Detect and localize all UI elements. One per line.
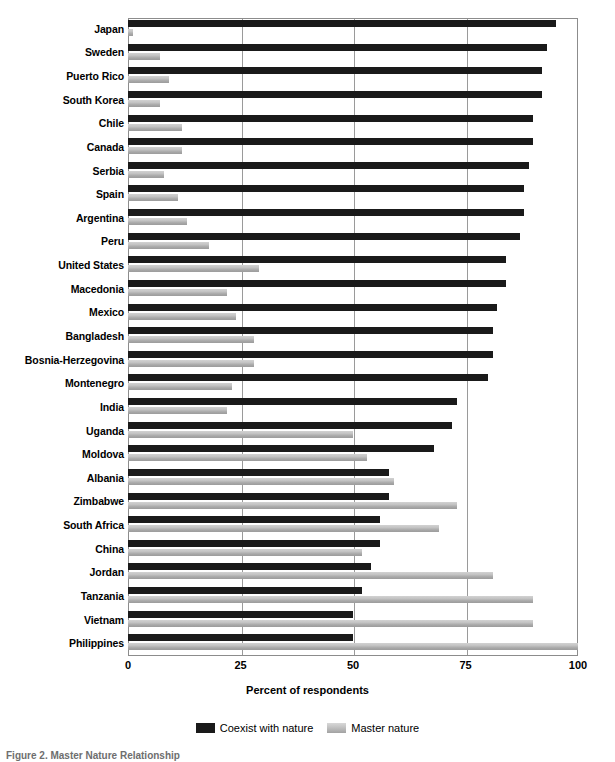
- bar-master: [128, 620, 533, 627]
- bar-row: [128, 514, 578, 538]
- bar-coexist: [128, 351, 493, 358]
- bar-row: [128, 491, 578, 515]
- bar-master: [128, 100, 160, 107]
- y-label-peru: Peru: [0, 236, 124, 247]
- x-tick-75: 75: [459, 659, 471, 671]
- bar-row: [128, 632, 578, 656]
- y-label-chile: Chile: [0, 118, 124, 129]
- y-label-montenegro: Montenegro: [0, 378, 124, 389]
- y-label-china: China: [0, 544, 124, 555]
- x-tick-50: 50: [347, 659, 359, 671]
- bar-row: [128, 65, 578, 89]
- bar-coexist: [128, 587, 362, 594]
- bar-master: [128, 242, 209, 249]
- x-axis-ticks: 0255075100: [128, 659, 578, 675]
- y-label-macedonia: Macedonia: [0, 284, 124, 295]
- bar-master: [128, 431, 353, 438]
- y-label-vietnam: Vietnam: [0, 615, 124, 626]
- figure-caption: Figure 2. Master Nature Relationship: [6, 750, 606, 762]
- legend-label-master: Master nature: [351, 722, 419, 734]
- y-label-argentina: Argentina: [0, 213, 124, 224]
- bar-row: [128, 207, 578, 231]
- x-tick-100: 100: [569, 659, 587, 671]
- bar-row: [128, 42, 578, 66]
- bar-coexist: [128, 374, 488, 381]
- y-label-uganda: Uganda: [0, 426, 124, 437]
- x-axis-title: Percent of respondents: [0, 684, 615, 696]
- bar-row: [128, 396, 578, 420]
- bar-master: [128, 147, 182, 154]
- bar-row: [128, 18, 578, 42]
- bar-master: [128, 525, 439, 532]
- y-label-india: India: [0, 402, 124, 413]
- y-label-united-states: United States: [0, 260, 124, 271]
- bar-row: [128, 254, 578, 278]
- bar-master: [128, 53, 160, 60]
- bar-coexist: [128, 280, 506, 287]
- bar-row: [128, 113, 578, 137]
- bar-row: [128, 183, 578, 207]
- bar-row: [128, 467, 578, 491]
- bar-master: [128, 596, 533, 603]
- bar-coexist: [128, 91, 542, 98]
- y-label-bosnia-herzegovina: Bosnia-Herzegovina: [0, 355, 124, 366]
- y-label-south-korea: South Korea: [0, 95, 124, 106]
- bar-row: [128, 325, 578, 349]
- bar-row: [128, 160, 578, 184]
- bar-row: [128, 609, 578, 633]
- bar-coexist: [128, 634, 353, 641]
- chart-legend: Coexist with nature Master nature: [0, 722, 615, 734]
- bar-master: [128, 76, 169, 83]
- bar-coexist: [128, 327, 493, 334]
- legend-item-master: Master nature: [327, 722, 419, 734]
- bar-coexist: [128, 209, 524, 216]
- bar-coexist: [128, 516, 380, 523]
- bar-master: [128, 383, 232, 390]
- bar-master: [128, 502, 457, 509]
- bar-master: [128, 171, 164, 178]
- y-label-japan: Japan: [0, 24, 124, 35]
- x-tick-0: 0: [125, 659, 131, 671]
- bar-coexist: [128, 256, 506, 263]
- y-label-bangladesh: Bangladesh: [0, 331, 124, 342]
- bar-master: [128, 289, 227, 296]
- bar-coexist: [128, 398, 457, 405]
- y-label-mexico: Mexico: [0, 307, 124, 318]
- bar-coexist: [128, 304, 497, 311]
- bar-coexist: [128, 138, 533, 145]
- bar-row: [128, 278, 578, 302]
- bar-row: [128, 538, 578, 562]
- bar-row: [128, 349, 578, 373]
- bar-master: [128, 572, 493, 579]
- x-tick-25: 25: [234, 659, 246, 671]
- bar-master: [128, 29, 133, 36]
- bar-coexist: [128, 20, 556, 27]
- bar-coexist: [128, 162, 529, 169]
- bar-coexist: [128, 67, 542, 74]
- bar-master: [128, 454, 367, 461]
- bar-master: [128, 360, 254, 367]
- bar-master: [128, 478, 394, 485]
- bar-master: [128, 407, 227, 414]
- bar-coexist: [128, 445, 434, 452]
- bar-coexist: [128, 44, 547, 51]
- y-label-spain: Spain: [0, 189, 124, 200]
- bar-master: [128, 218, 187, 225]
- bar-master: [128, 643, 578, 650]
- plot-area: [128, 18, 578, 656]
- y-label-albania: Albania: [0, 473, 124, 484]
- bar-row: [128, 443, 578, 467]
- bar-coexist: [128, 611, 353, 618]
- light-swatch-icon: [327, 723, 346, 733]
- bar-row: [128, 585, 578, 609]
- y-axis-category-labels: JapanSwedenPuerto RicoSouth KoreaChileCa…: [0, 18, 124, 656]
- y-label-canada: Canada: [0, 142, 124, 153]
- legend-label-coexist: Coexist with nature: [220, 722, 314, 734]
- bar-master: [128, 549, 362, 556]
- bar-rows: [128, 18, 578, 656]
- bar-master: [128, 313, 236, 320]
- bar-master: [128, 194, 178, 201]
- y-label-tanzania: Tanzania: [0, 591, 124, 602]
- bar-coexist: [128, 422, 452, 429]
- bar-coexist: [128, 469, 389, 476]
